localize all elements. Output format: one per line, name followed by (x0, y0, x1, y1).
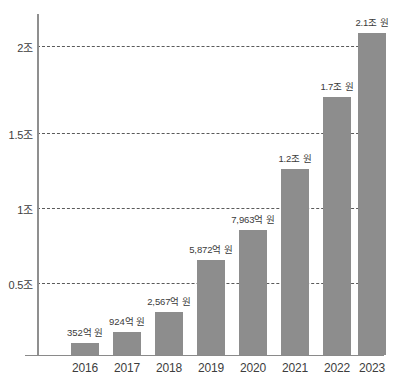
y-axis-tick-1: 1조 (0, 201, 33, 215)
bar-group-2020[interactable]: 7,963억 원 (239, 0, 267, 355)
y-axis-tick-2: 1.5조 (0, 126, 33, 140)
bar[interactable] (155, 312, 183, 355)
bar[interactable] (197, 260, 225, 355)
bar-group-2023[interactable]: 2.1조 원 (358, 0, 386, 355)
x-axis-tick-label-2023: 2023 (344, 361, 400, 375)
bar-group-2017[interactable]: 924억 원 (113, 0, 141, 355)
y-axis-tick-label: 1.5조 (9, 126, 34, 142)
bar-value-label: 924억 원 (109, 314, 145, 328)
y-axis-tick-label: 1조 (17, 201, 33, 217)
bar-chart: 0.5조 1조 1.5조 2조 352억 원 924억 원 2,567억 원 5… (0, 0, 406, 381)
y-axis-tick-3: 2조 (0, 39, 33, 53)
y-axis-tick-label: 0.5조 (9, 276, 34, 292)
bar[interactable] (239, 230, 267, 355)
bar-value-label: 1.7조 원 (320, 79, 353, 93)
bar[interactable] (113, 332, 141, 355)
bar-value-label: 1.2조 원 (278, 151, 311, 165)
bar-value-label: 2,567억 원 (147, 294, 191, 308)
bar-value-label: 2.1조 원 (355, 15, 388, 29)
bar-value-label: 5,872억 원 (189, 242, 233, 256)
bar-group-2021[interactable]: 1.2조 원 (281, 0, 309, 355)
bar[interactable] (281, 169, 309, 355)
bar-value-label: 7,963억 원 (231, 212, 275, 226)
bar-group-2016[interactable]: 352억 원 (71, 0, 99, 355)
bar-group-2019[interactable]: 5,872억 원 (197, 0, 225, 355)
y-axis-tick-label: 2조 (17, 39, 33, 55)
bar[interactable] (71, 343, 99, 355)
bar[interactable] (323, 97, 351, 355)
bar-group-2022[interactable]: 1.7조 원 (323, 0, 351, 355)
bar[interactable] (358, 33, 386, 355)
bar-value-label: 352억 원 (67, 325, 103, 339)
y-axis-line (37, 14, 39, 355)
bar-group-2018[interactable]: 2,567억 원 (155, 0, 183, 355)
y-axis-tick-0: 0.5조 (0, 276, 33, 290)
x-axis-line (25, 355, 384, 356)
